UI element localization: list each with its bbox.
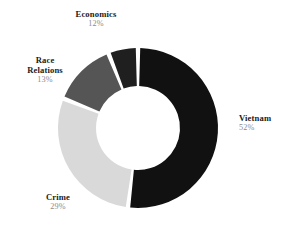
donut-slices xyxy=(58,48,218,208)
slice-label-crime-text: Crime xyxy=(29,192,87,202)
slice-value-vietnam: 52% xyxy=(239,123,294,133)
slice-label-race-relations-line2: Relations xyxy=(14,65,76,75)
slice-value-economics: 12% xyxy=(61,19,131,29)
slice-label-race-relations: Race Relations 13% xyxy=(14,55,76,85)
slice-label-crime: Crime 29% xyxy=(29,192,87,212)
slice-label-economics: Economics 12% xyxy=(61,9,131,29)
slice-label-race-relations-line1: Race xyxy=(14,55,76,65)
slice-value-crime: 29% xyxy=(29,202,87,212)
slice-label-vietnam: Vietnam 52% xyxy=(239,113,294,133)
donut-chart: Economics 12% Race Relations 13% Vietnam… xyxy=(0,0,294,240)
slice-label-economics-text: Economics xyxy=(61,9,131,19)
donut-slice-vietnam xyxy=(130,48,218,208)
slice-value-race-relations: 13% xyxy=(14,75,76,85)
slice-label-vietnam-text: Vietnam xyxy=(239,113,294,123)
